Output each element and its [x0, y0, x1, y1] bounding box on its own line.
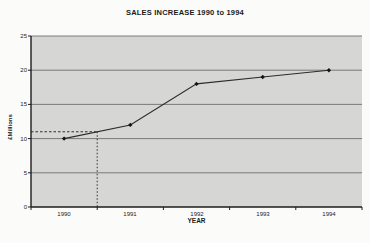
- y-tick-label: 5: [8, 170, 27, 176]
- y-tick-label: 25: [8, 33, 27, 39]
- y-tick-label: 0: [8, 204, 27, 210]
- chart-canvas: [0, 0, 370, 243]
- x-axis-title: YEAR: [31, 217, 362, 224]
- y-axis-title: £Millions: [7, 107, 17, 147]
- sales-line-chart: SALES INCREASE 1990 to 1994 25 20 15 10 …: [0, 0, 370, 243]
- y-tick-label: 20: [8, 67, 27, 73]
